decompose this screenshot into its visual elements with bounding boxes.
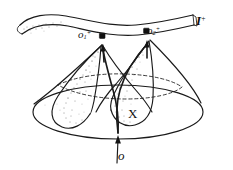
scri-i-superscript: + — [201, 14, 206, 23]
label-region-x: X — [128, 107, 137, 120]
figure-canvas: I+ o1+ o2+ X o — [0, 0, 233, 170]
null-geodesic-curves — [96, 42, 152, 133]
label-point-o2: o2+ — [147, 25, 160, 37]
left-past-light-cone — [38, 46, 101, 128]
o2-superscript: + — [156, 25, 160, 32]
ribbon-stipple — [24, 22, 73, 34]
o1-superscript: + — [87, 29, 91, 36]
label-origin: o — [118, 149, 125, 162]
left-cone-stipple — [38, 52, 99, 124]
dashed-horizon-circle — [58, 74, 182, 99]
label-point-o1: o1+ — [78, 29, 91, 41]
label-null-infinity: I+ — [196, 14, 206, 27]
point-marker-o1 — [99, 33, 105, 38]
null-infinity-ribbon — [17, 15, 197, 36]
